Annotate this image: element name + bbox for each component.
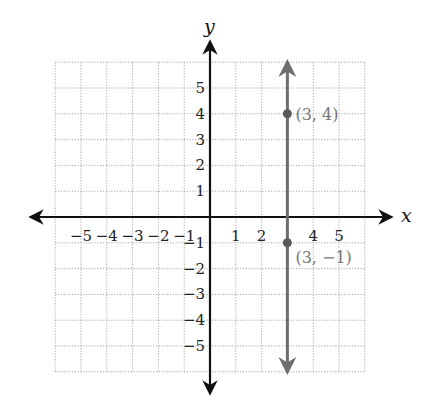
y-tick-label: −5: [183, 337, 205, 355]
y-tick-label: 5: [195, 79, 205, 97]
y-tick-label: 2: [195, 156, 205, 174]
y-tick-label: 4: [195, 105, 205, 123]
x-tick-label: 2: [257, 227, 267, 245]
point-label: (3, −1): [295, 248, 351, 267]
x-tick-label: −2: [147, 227, 169, 245]
y-tick-label: −2: [183, 260, 205, 278]
x-tick-label: 5: [334, 227, 344, 245]
x-tick-label: 1: [231, 227, 241, 245]
point-marker: [283, 109, 292, 118]
y-tick-label: −3: [183, 285, 205, 303]
y-tick-label: 3: [195, 131, 205, 149]
y-tick-label: −1: [183, 234, 205, 252]
coordinate-plane: x y −5−4−3−2−11245 54321−1−2−3−4−5 (3, 4…: [0, 0, 433, 408]
y-tick-label: 1: [195, 182, 205, 200]
y-axis-label: y: [203, 15, 215, 37]
x-tick-label: −3: [122, 227, 144, 245]
x-tick-label: −4: [96, 227, 118, 245]
x-axis-label: x: [401, 204, 412, 226]
x-axis: x: [36, 204, 412, 226]
y-axis: y: [203, 15, 215, 388]
y-tick-label: −4: [183, 311, 205, 329]
point-label: (3, 4): [295, 105, 338, 124]
x-tick-label: −5: [70, 227, 92, 245]
x-tick-label: 4: [308, 227, 318, 245]
point-marker: [283, 238, 292, 247]
